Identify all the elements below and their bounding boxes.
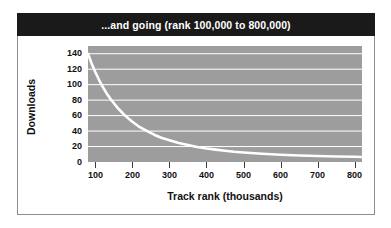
x-tick-mark (169, 162, 170, 168)
x-tick-label: 200 (117, 171, 147, 180)
figure-container: ...and going (rank 100,000 to 800,000) D… (0, 0, 391, 228)
x-tick-label: 800 (340, 171, 370, 180)
x-tick-mark (318, 162, 319, 168)
x-tick-label: 400 (191, 171, 221, 180)
x-tick-mark (355, 162, 356, 168)
y-tick-label: 140 (56, 49, 82, 58)
plot-area (88, 46, 362, 162)
y-tick-label: 60 (56, 111, 82, 120)
chart-title: ...and going (rank 100,000 to 800,000) (101, 19, 290, 31)
downloads-decay-curve-svg (88, 46, 362, 162)
x-tick-mark (281, 162, 282, 168)
x-tick-mark (244, 162, 245, 168)
x-tick-label: 300 (154, 171, 184, 180)
x-tick-label: 700 (303, 171, 333, 180)
y-tick-label: 100 (56, 80, 82, 89)
y-tick-label: 20 (56, 142, 82, 151)
chart-title-banner: ...and going (rank 100,000 to 800,000) (17, 13, 375, 36)
y-axis-title-text: Downloads (25, 79, 37, 135)
x-tick-label: 100 (80, 171, 110, 180)
x-tick-mark (206, 162, 207, 168)
x-tick-label: 500 (229, 171, 259, 180)
y-tick-label: 0 (56, 158, 82, 167)
x-axis-title: Track rank (thousands) (88, 190, 362, 202)
x-tick-mark (132, 162, 133, 168)
y-tick-label: 40 (56, 127, 82, 136)
gridlines (88, 54, 362, 147)
y-tick-label: 80 (56, 96, 82, 105)
y-axis-title: Downloads (24, 64, 38, 150)
y-tick-label: 120 (56, 65, 82, 74)
x-tick-mark (95, 162, 96, 168)
x-tick-label: 600 (266, 171, 296, 180)
